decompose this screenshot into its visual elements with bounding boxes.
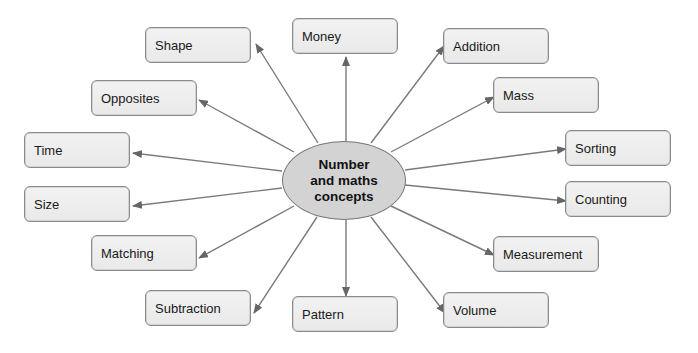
- arrow-to-addition: [371, 46, 444, 143]
- center-line-3: concepts: [310, 189, 378, 205]
- concept-box-opposites: Opposites: [91, 80, 197, 116]
- arrow-to-opposites: [199, 100, 294, 152]
- concept-box-size: Size: [24, 186, 130, 222]
- concept-label: Money: [302, 29, 341, 44]
- concept-box-matching: Matching: [91, 235, 197, 271]
- arrow-to-mass: [391, 97, 494, 152]
- arrow-to-sorting: [405, 149, 566, 170]
- concept-box-money: Money: [292, 18, 398, 54]
- concept-box-measurement: Measurement: [493, 236, 599, 272]
- arrow-to-counting: [405, 185, 566, 201]
- concept-box-time: Time: [24, 132, 130, 168]
- arrow-to-size: [133, 188, 282, 206]
- concept-box-subtraction: Subtraction: [145, 290, 251, 326]
- concept-box-pattern: Pattern: [292, 296, 398, 332]
- central-concept-node: Number and maths concepts: [282, 141, 406, 220]
- concept-label: Opposites: [101, 91, 160, 106]
- concept-label: Sorting: [575, 141, 616, 156]
- concept-label: Size: [34, 197, 59, 212]
- concept-label: Shape: [155, 38, 193, 53]
- concept-box-volume: Volume: [443, 292, 549, 328]
- center-line-2: and maths: [310, 173, 378, 189]
- concept-label: Measurement: [503, 247, 582, 262]
- mind-map-diagram: Number and maths concepts Shape Money Ad…: [0, 0, 698, 353]
- concept-box-counting: Counting: [565, 181, 671, 217]
- center-line-1: Number: [310, 157, 378, 173]
- concept-label: Counting: [575, 192, 627, 207]
- arrow-to-shape: [256, 44, 318, 143]
- arrow-to-matching: [199, 206, 294, 258]
- arrow-to-time: [133, 153, 282, 171]
- concept-box-shape: Shape: [145, 27, 251, 63]
- concept-label: Volume: [453, 303, 496, 318]
- concept-box-mass: Mass: [493, 77, 599, 113]
- arrow-to-measurement: [391, 206, 494, 255]
- concept-box-addition: Addition: [443, 28, 549, 64]
- concept-label: Time: [34, 143, 62, 158]
- concept-label: Subtraction: [155, 301, 221, 316]
- concept-label: Mass: [503, 88, 534, 103]
- concept-box-sorting: Sorting: [565, 130, 671, 166]
- concept-label: Pattern: [302, 307, 344, 322]
- concept-label: Matching: [101, 246, 154, 261]
- concept-label: Addition: [453, 39, 500, 54]
